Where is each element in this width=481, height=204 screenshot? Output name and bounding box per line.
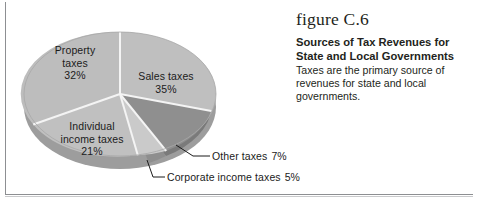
- pie-label-individual-income-taxes: Individual income taxes 21%: [48, 120, 136, 158]
- callout-other-taxes: Other taxes7%: [212, 150, 287, 162]
- pie-label-individual-income-taxes-value: 21%: [81, 145, 102, 157]
- figure-bottom-rule-shadow: [5, 196, 473, 197]
- figure-title: Sources of Tax Revenues for State and Lo…: [296, 36, 466, 63]
- pie-label-individual-income-taxes-line2: income taxes: [60, 133, 123, 145]
- figure-bottom-rule: [5, 194, 473, 195]
- figure-caption: Taxes are the primary source of revenues…: [296, 64, 466, 103]
- callout-corporate-income-taxes-name: Corporate income taxes: [167, 171, 281, 183]
- pie-label-property-taxes: Property taxes 32%: [38, 44, 112, 82]
- callout-corporate-income-taxes-value: 5%: [285, 171, 300, 183]
- pie-label-sales-taxes-name: Sales taxes: [138, 70, 193, 82]
- callout-other-taxes-value: 7%: [271, 150, 286, 162]
- callout-other-taxes-name: Other taxes: [212, 150, 267, 162]
- pie-label-sales-taxes-value: 35%: [155, 83, 176, 95]
- pie-label-property-taxes-line1: Property: [55, 44, 95, 56]
- figure-text-column: figure C.6 Sources of Tax Revenues for S…: [296, 9, 466, 103]
- figure-number: figure C.6: [296, 9, 466, 29]
- pie-label-property-taxes-value: 32%: [64, 69, 85, 81]
- pie-label-sales-taxes: Sales taxes 35%: [128, 70, 204, 95]
- pie-label-property-taxes-line2: taxes: [62, 57, 88, 69]
- pie-chart: Property taxes 32% Sales taxes 35% Indiv…: [16, 8, 228, 178]
- callout-corporate-income-taxes: Corporate income taxes5%: [167, 171, 300, 183]
- figure-container: Property taxes 32% Sales taxes 35% Indiv…: [0, 0, 481, 204]
- figure-left-rule: [5, 2, 6, 195]
- pie-label-individual-income-taxes-line1: Individual: [69, 120, 114, 132]
